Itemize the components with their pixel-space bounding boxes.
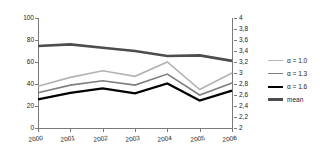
legend-swatch-icon <box>268 86 283 88</box>
chart-legend: α = 1.0α = 1.3α = 1.6mean <box>268 54 320 106</box>
legend-item[interactable]: α = 1.3 <box>268 67 320 80</box>
y-tick-label-right: 2,8 <box>239 80 261 87</box>
y-tick-label-left: 80 <box>8 36 34 43</box>
legend-swatch-icon <box>268 98 283 101</box>
y-tick-label-right: 3 <box>239 69 261 76</box>
legend-item-label: α = 1.0 <box>287 57 307 65</box>
chart-container: 02040608010022,22,42,62,833,23,43,63,842… <box>0 0 320 160</box>
legend-item[interactable]: mean <box>268 93 320 106</box>
y-tick-label-right: 2,6 <box>239 91 261 98</box>
legend-item[interactable]: α = 1.6 <box>268 80 320 93</box>
y-tick-label-right: 3,6 <box>239 36 261 43</box>
y-tick-label-right: 2,4 <box>239 102 261 109</box>
y-tick-label-right: 3,2 <box>239 58 261 65</box>
legend-swatch-icon <box>268 73 283 74</box>
legend-item-label: α = 1.6 <box>287 83 307 91</box>
y-tick-label-right: 2,2 <box>239 113 261 120</box>
y-tick-label-right: 3,4 <box>239 47 261 54</box>
y-tick-label-right: 4 <box>239 14 261 21</box>
y-tick-label-left: 40 <box>8 80 34 87</box>
y-tick-label-left: 60 <box>8 58 34 65</box>
y-tick-label-right: 2 <box>239 124 261 131</box>
legend-swatch-icon <box>268 60 283 61</box>
legend-item-label: α = 1.3 <box>287 70 307 78</box>
series-line-mean <box>38 44 232 61</box>
series-line-1.3 <box>38 74 232 95</box>
legend-item-label: mean <box>287 96 303 104</box>
legend-item[interactable]: α = 1.0 <box>268 54 320 67</box>
y-tick-label-left: 20 <box>8 102 34 109</box>
y-tick-label-right: 3,8 <box>239 25 261 32</box>
y-tick-label-left: 100 <box>8 14 34 21</box>
y-tick-label-left: 0 <box>8 124 34 131</box>
